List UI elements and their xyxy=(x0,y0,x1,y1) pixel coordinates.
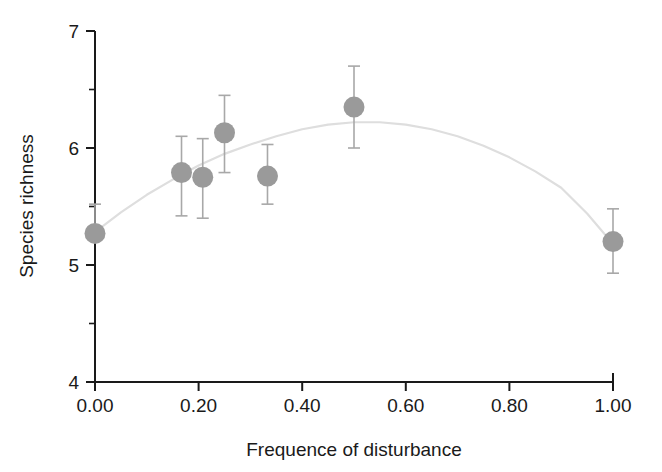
y-tick-label-5: 5 xyxy=(68,255,79,276)
y-axis-title: Species richness xyxy=(16,134,37,278)
data-point-marker xyxy=(214,122,235,143)
data-point-marker xyxy=(603,231,624,252)
y-tick-label-6: 6 xyxy=(68,138,79,159)
data-point-marker xyxy=(192,167,213,188)
x-tick-label-0.00: 0.00 xyxy=(77,395,114,416)
y-tick-label-4: 4 xyxy=(68,372,79,393)
data-point-marker xyxy=(257,166,278,187)
x-axis-title: Frequence of disturbance xyxy=(246,439,461,460)
data-point-marker xyxy=(171,162,192,183)
data-point-marker xyxy=(344,97,365,118)
chart-canvas: 4567 0.000.200.400.600.801.00 Frequence … xyxy=(0,0,662,472)
y-tick-label-7: 7 xyxy=(68,21,79,42)
x-tick-label-0.60: 0.60 xyxy=(387,395,424,416)
y-axis-tick-labels: 4567 xyxy=(68,21,79,393)
x-tick-label-0.80: 0.80 xyxy=(491,395,528,416)
x-tick-label-0.20: 0.20 xyxy=(180,395,217,416)
data-point-marker xyxy=(85,223,106,244)
x-tick-label-1.00: 1.00 xyxy=(595,395,632,416)
x-axis-tick-labels: 0.000.200.400.600.801.00 xyxy=(77,395,632,416)
figure-container: 4567 0.000.200.400.600.801.00 Frequence … xyxy=(0,0,662,472)
x-tick-label-0.40: 0.40 xyxy=(284,395,321,416)
